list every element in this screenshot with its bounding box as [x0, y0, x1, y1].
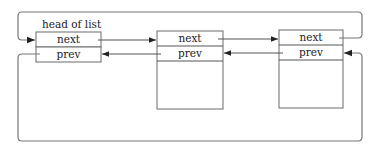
node-2-next-label: next [299, 31, 323, 43]
node-1-prev-label: prev [178, 47, 202, 59]
linked-list-diagram: head of list next prev next prev next pr… [0, 0, 378, 147]
node-2-prev-label: prev [299, 46, 323, 58]
node-1: next prev [157, 31, 223, 109]
node-1-next-label: next [178, 32, 202, 44]
head-of-list-label: head of list [42, 18, 102, 30]
head-next-label: next [57, 33, 81, 45]
node-2: next prev [279, 30, 343, 108]
head-node: next prev [36, 32, 101, 62]
head-prev-label: prev [57, 48, 81, 60]
